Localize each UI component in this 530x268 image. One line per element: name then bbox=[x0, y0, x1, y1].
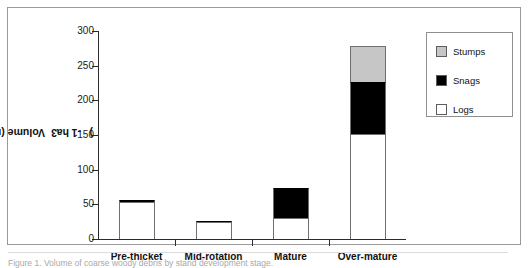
y-axis-tick-label: 50 bbox=[83, 197, 94, 210]
legend-item[interactable]: Stumps bbox=[436, 46, 485, 57]
plot-area: 050100150200250300 Pre-thicketMid-rotati… bbox=[98, 31, 406, 239]
bar[interactable] bbox=[196, 221, 232, 239]
figure-frame: Volume (m3 ha-1 ) 050100150200250300 Pre… bbox=[7, 7, 521, 245]
bar[interactable] bbox=[119, 200, 155, 239]
y-axis-tick-label: 0 bbox=[88, 232, 94, 245]
bar-segment-snags[interactable] bbox=[273, 188, 309, 218]
bar-segment-logs[interactable] bbox=[273, 218, 309, 239]
legend-swatch-logs bbox=[436, 104, 447, 115]
legend-item[interactable]: Snags bbox=[436, 75, 480, 86]
bar-segment-stumps[interactable] bbox=[350, 46, 386, 81]
bar-segment-logs[interactable] bbox=[119, 202, 155, 239]
x-axis-tick-mark bbox=[252, 240, 253, 246]
legend-label: Snags bbox=[453, 75, 480, 86]
legend-swatch-snags bbox=[436, 75, 447, 86]
bar-stack bbox=[273, 188, 309, 239]
figure-caption-text: Figure 1. Volume of coarse woody debris … bbox=[8, 258, 508, 268]
y-axis-tick-label: 300 bbox=[77, 24, 94, 37]
bar[interactable] bbox=[273, 188, 309, 239]
legend-item[interactable]: Logs bbox=[436, 104, 474, 115]
x-axis-tick-mark bbox=[329, 240, 330, 246]
y-axis-tick-label: 100 bbox=[77, 163, 94, 176]
y-axis-tick-label: 250 bbox=[77, 59, 94, 72]
bar-segment-logs[interactable] bbox=[196, 222, 232, 239]
bar[interactable] bbox=[350, 46, 386, 239]
legend-label: Logs bbox=[453, 104, 474, 115]
legend-swatch-stumps bbox=[436, 46, 447, 57]
x-axis-tick-mark bbox=[175, 240, 176, 246]
legend: StumpsSnagsLogs bbox=[426, 32, 513, 117]
bar-stack bbox=[119, 200, 155, 239]
legend-label: Stumps bbox=[453, 46, 485, 57]
bar-group bbox=[98, 31, 406, 239]
bar-stack bbox=[350, 46, 386, 239]
bar-stack bbox=[196, 221, 232, 239]
bar-segment-logs[interactable] bbox=[350, 134, 386, 239]
figure-caption: Figure 1. Volume of coarse woody debris … bbox=[8, 258, 508, 268]
y-axis-tick-label: 150 bbox=[77, 128, 94, 141]
y-axis-tick-label: 200 bbox=[77, 93, 94, 106]
y-axis-title: Volume (m3 ha-1 ) bbox=[32, 68, 52, 198]
bar-segment-snags[interactable] bbox=[350, 82, 386, 134]
caption-divider bbox=[8, 252, 508, 253]
